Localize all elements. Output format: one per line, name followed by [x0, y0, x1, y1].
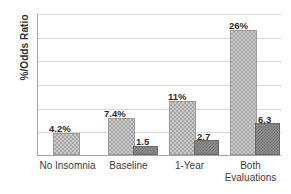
bar-label-no-insomnia-percent: 4.2%: [49, 124, 71, 134]
bar-baseline-odds-ratio: [133, 146, 158, 155]
bar-group-baseline: 7.4% 1.5: [98, 13, 159, 155]
bar-label-both-evaluations-percent: 26%: [229, 21, 248, 31]
bar-baseline-percent: [108, 118, 135, 155]
x-category-line-1: 1-Year: [159, 160, 220, 172]
x-category-line-2: Evaluations: [220, 172, 281, 184]
x-category-label-1-year: 1-Year: [159, 160, 220, 172]
bar-label-baseline-percent: 7.4%: [104, 109, 126, 119]
bar-label-1-year-odds-ratio: 2.7: [197, 132, 210, 142]
bar-group-no-insomnia: 4.2%: [37, 13, 98, 155]
bar-group-1-year: 11% 2.7: [159, 13, 220, 155]
bar-no-insomnia-percent: [53, 133, 80, 155]
bar-group-both-evaluations: 26% 6.3: [220, 13, 281, 155]
x-category-line-1: Baseline: [98, 160, 159, 172]
plot-area: 4.2% 7.4% 1.5 11% 2.7 26% 6.3: [37, 14, 281, 156]
bar-1-year-odds-ratio: [194, 140, 219, 155]
bar-label-baseline-odds-ratio: 1.5: [136, 137, 149, 147]
bar-label-1-year-percent: 11%: [168, 92, 187, 102]
x-category-line-1: No Insomnia: [37, 160, 98, 172]
bar-both-evaluations-percent: [230, 30, 257, 155]
bar-label-both-evaluations-odds-ratio: 6.3: [258, 115, 271, 125]
y-axis-title: %/Odds Ratio: [19, 0, 30, 96]
x-category-label-no-insomnia: No Insomnia: [37, 160, 98, 172]
x-axis-line: [37, 155, 281, 156]
x-category-label-both-evaluations: Both Evaluations: [220, 160, 281, 183]
x-category-line-1: Both: [220, 160, 281, 172]
bar-both-evaluations-odds-ratio: [255, 123, 280, 155]
bar-1-year-percent: [169, 101, 196, 155]
x-category-label-baseline: Baseline: [98, 160, 159, 172]
bar-chart: %/Odds Ratio 0 5 10 15 20 25 30 4.2% 7.4…: [0, 0, 291, 194]
